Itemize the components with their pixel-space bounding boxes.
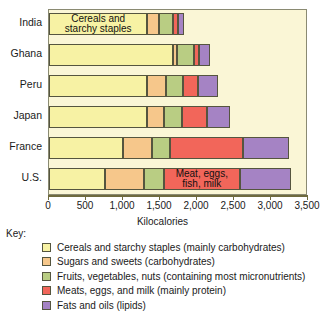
y-axis-label-ghana: Ghana xyxy=(0,48,42,59)
bar-segment xyxy=(147,106,164,128)
bar-segment xyxy=(164,168,240,190)
bar-segment xyxy=(207,106,230,128)
plot-area: Cereals and starchy staplesMeat, eggs, f… xyxy=(48,9,307,195)
bar-segment xyxy=(49,13,147,35)
legend-item: Sugars and sweets (carbohydrates) xyxy=(6,255,321,270)
legend-label: Cereals and starchy staples (mainly carb… xyxy=(57,242,285,253)
bar-segment xyxy=(123,137,152,159)
y-axis-label-india: India xyxy=(0,17,42,28)
bar-segment xyxy=(240,168,291,190)
x-axis-line xyxy=(48,195,308,197)
legend-swatch-icon xyxy=(42,286,51,295)
bar-segment xyxy=(152,137,170,159)
bar-segment xyxy=(159,13,173,35)
stacked-bar-chart: IndiaGhanaPeruJapanFranceU.S. Cereals an… xyxy=(0,0,325,327)
y-axis-label-us: U.S. xyxy=(0,172,42,183)
bar-segment xyxy=(198,75,218,97)
legend-swatch-icon xyxy=(42,272,51,281)
legend-label: Fruits, vegetables, nuts (containing mos… xyxy=(57,271,305,282)
legend-swatch-icon xyxy=(42,257,51,266)
key-title: Key: xyxy=(6,228,26,239)
legend-swatch-icon xyxy=(42,301,51,310)
bar-segment xyxy=(177,44,194,66)
legend-item: Meats, eggs, and milk (mainly protein) xyxy=(6,284,321,299)
bar-segment xyxy=(178,13,185,35)
bar-segment xyxy=(105,168,145,190)
bar-segment xyxy=(170,137,243,159)
bar-france xyxy=(49,137,308,159)
x-axis-tick-label: 3,500 xyxy=(294,200,319,211)
bars-layer: Cereals and starchy staplesMeat, eggs, f… xyxy=(49,10,306,194)
legend-label: Sugars and sweets (carbohydrates) xyxy=(57,256,215,267)
y-axis-label-peru: Peru xyxy=(0,79,42,90)
legend-label: Fats and oils (lipids) xyxy=(57,300,146,311)
legend-item: Fats and oils (lipids) xyxy=(6,298,321,313)
y-axis-label-france: France xyxy=(0,141,42,152)
bar-segment xyxy=(144,168,163,190)
legend-swatch-icon xyxy=(42,243,51,252)
bar-peru xyxy=(49,75,308,97)
x-axis-tick-label: 1,500 xyxy=(146,200,171,211)
bar-segment xyxy=(49,106,147,128)
bar-segment xyxy=(49,168,105,190)
bar-us: Meat, eggs, fish, milk xyxy=(49,168,308,190)
x-axis-tick-label: 2,500 xyxy=(220,200,245,211)
y-axis-label-japan: Japan xyxy=(0,110,42,121)
bar-india: Cereals and starchy staples xyxy=(49,13,308,35)
x-axis-tick-label: 2,000 xyxy=(183,200,208,211)
bar-ghana xyxy=(49,44,308,66)
bar-segment xyxy=(147,75,166,97)
x-axis-title: Kilocalories xyxy=(0,216,325,227)
legend-item: Fruits, vegetables, nuts (containing mos… xyxy=(6,269,321,284)
legend-item: Cereals and starchy staples (mainly carb… xyxy=(6,240,321,255)
bar-segment xyxy=(49,137,123,159)
bar-segment xyxy=(183,75,198,97)
bar-segment xyxy=(243,137,290,159)
x-axis-tick-label: 3,000 xyxy=(257,200,282,211)
bar-segment xyxy=(199,44,209,66)
chart-legend: Cereals and starchy staples (mainly carb… xyxy=(6,240,321,313)
y-axis-category-labels: IndiaGhanaPeruJapanFranceU.S. xyxy=(0,9,45,195)
bar-japan xyxy=(49,106,308,128)
x-axis-tick-label: 500 xyxy=(77,200,94,211)
bar-segment xyxy=(49,44,173,66)
x-axis-tick-label: 1,000 xyxy=(109,200,134,211)
x-axis-tick-label: 0 xyxy=(45,200,51,211)
bar-segment xyxy=(49,75,147,97)
bar-segment xyxy=(164,106,182,128)
bar-segment xyxy=(166,75,183,97)
legend-label: Meats, eggs, and milk (mainly protein) xyxy=(57,285,226,296)
bar-segment xyxy=(147,13,158,35)
bar-segment xyxy=(182,106,207,128)
